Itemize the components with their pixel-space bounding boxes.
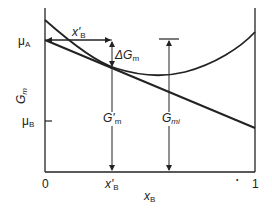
gibbs-energy-diagram xyxy=(0,0,272,208)
g-mi-label: Gmi xyxy=(162,112,180,126)
mu-a-main: μ xyxy=(18,34,25,48)
tangent-line xyxy=(45,40,255,128)
stray-dot: • xyxy=(236,176,238,183)
xb-arrow-sub: B xyxy=(80,31,85,40)
g-prime-m-main: G' xyxy=(103,111,115,125)
mu-b-main: μ xyxy=(22,114,29,128)
mu-b-label: μB xyxy=(22,115,34,129)
x-axis-label: xB xyxy=(144,190,155,204)
x-tick-0: 0 xyxy=(42,178,49,190)
y-axis-label: Gm xyxy=(15,88,29,104)
delta-gm-sub: m xyxy=(132,54,139,63)
g-prime-m-label: G'm xyxy=(103,112,121,126)
delta-gm-main: ΔG xyxy=(115,48,132,62)
y-axis-label-sub: m xyxy=(20,88,29,95)
mu-b-sub: B xyxy=(29,120,34,129)
x-tick-1: 1 xyxy=(252,178,259,190)
mu-a-label: μA xyxy=(18,35,30,49)
g-mi-sub: mi xyxy=(171,117,179,126)
tangent-point xyxy=(111,67,114,70)
mu-a-sub: A xyxy=(25,40,30,49)
x-tick-xb: x'B xyxy=(105,178,119,192)
y-axis-label-main: G xyxy=(14,95,28,104)
g-prime-m-sub: m xyxy=(115,117,122,126)
x-axis-label-sub: B xyxy=(150,195,155,204)
delta-gm-label: ΔGm xyxy=(115,49,139,63)
xb-arrow-label: x'B xyxy=(72,26,86,40)
x-tick-xb-sub: B xyxy=(113,183,118,192)
g-mi-main: G xyxy=(162,111,171,125)
